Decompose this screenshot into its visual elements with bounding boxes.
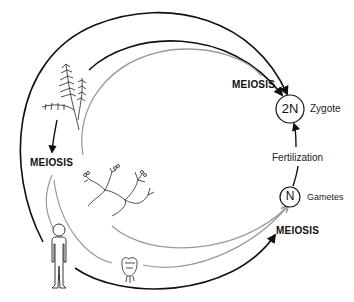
inner-gray-arc <box>82 49 262 155</box>
gray-arc-left <box>46 175 55 232</box>
fungus-icon <box>122 258 137 283</box>
gray-arc-lower-outer-2 <box>143 207 287 267</box>
fern-meiosis-arrow <box>52 120 57 152</box>
meiosis-label-bottom: MEIOSIS <box>276 226 319 236</box>
zygote-label: Zygote <box>310 104 341 114</box>
gametes-symbol: N <box>280 190 300 202</box>
gray-arc-alga <box>112 206 288 248</box>
meiosis-label-top: MEIOSIS <box>232 80 275 90</box>
zygote-symbol: 2N <box>276 102 304 115</box>
human-icon <box>52 224 66 288</box>
gametes-label: Gametes <box>307 193 344 202</box>
fertilization-arrow-upper <box>294 124 296 147</box>
fertilization-line-lower <box>293 166 298 186</box>
fertilization-label: Fertilization <box>272 153 323 163</box>
life-cycle-diagram <box>0 0 354 302</box>
fern-icon <box>42 64 86 130</box>
meiosis-label-left: MEIOSIS <box>30 158 73 168</box>
alga-icon <box>84 165 155 217</box>
